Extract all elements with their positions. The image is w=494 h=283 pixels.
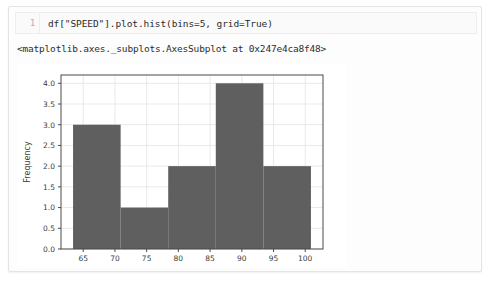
- x-tick-label: 85: [205, 254, 215, 263]
- x-tick-label: 95: [269, 254, 279, 263]
- code-input-cell[interactable]: 1 df["SPEED"].plot.hist(bins=5, grid=Tru…: [15, 12, 477, 34]
- x-axis-ticks: 65707580859095100: [78, 249, 312, 263]
- x-tick-label: 70: [110, 254, 120, 263]
- histogram-bar: [121, 208, 169, 249]
- y-tick-label: 4.0: [43, 79, 55, 88]
- x-tick-label: 80: [174, 254, 184, 263]
- histogram-bar: [168, 166, 216, 249]
- y-tick-label: 1.0: [43, 203, 55, 212]
- y-tick-label: 2.0: [43, 162, 55, 171]
- y-tick-label: 1.5: [43, 183, 55, 192]
- y-tick-label: 0.0: [43, 245, 55, 254]
- y-tick-label: 0.5: [43, 224, 55, 233]
- y-tick-label: 3.0: [43, 121, 55, 130]
- histogram-bar: [216, 83, 264, 249]
- output-repr-text: <matplotlib.axes._subplots.AxesSubplot a…: [17, 43, 326, 54]
- x-tick-label: 100: [298, 254, 313, 263]
- y-axis-label: Frequency: [23, 141, 32, 183]
- histogram-bar: [263, 166, 311, 249]
- y-tick-label: 2.5: [43, 141, 55, 150]
- histogram-bar: [73, 125, 121, 249]
- y-tick-label: 3.5: [43, 100, 55, 109]
- y-axis-ticks: 0.00.51.01.52.02.53.03.54.0: [43, 79, 61, 254]
- notebook-output-container: 1 df["SPEED"].plot.hist(bins=5, grid=Tru…: [8, 6, 482, 272]
- x-tick-label: 90: [237, 254, 247, 263]
- histogram-chart: 65707580859095100 0.00.51.01.52.02.53.03…: [17, 63, 347, 268]
- matplotlib-figure: 65707580859095100 0.00.51.01.52.02.53.03…: [17, 63, 347, 268]
- x-tick-label: 65: [78, 254, 88, 263]
- code-line-number: 1: [16, 13, 40, 33]
- x-tick-label: 75: [142, 254, 152, 263]
- code-input-text[interactable]: df["SPEED"].plot.hist(bins=5, grid=True): [40, 18, 273, 29]
